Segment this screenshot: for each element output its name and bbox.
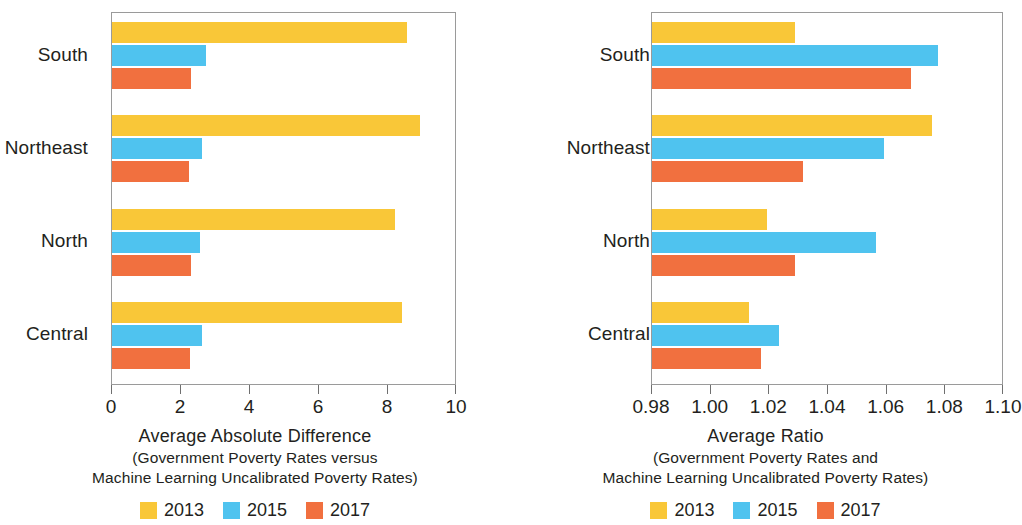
legend-label-2017: 2017 bbox=[841, 500, 881, 521]
bar-south-2017 bbox=[652, 68, 911, 89]
right-axis-title-sub2: Machine Learning Uncalibrated Poverty Ra… bbox=[510, 468, 1021, 488]
x-tick bbox=[768, 385, 769, 394]
x-tick-label: 1.02 bbox=[750, 396, 787, 418]
bar-south-2013 bbox=[652, 22, 795, 43]
category-label-central: Central bbox=[588, 323, 650, 345]
right-category-axis: SouthNortheastNorthCentral bbox=[530, 10, 650, 385]
chart-panel-average-ratio: SouthNortheastNorthCentral 0.981.001.021… bbox=[510, 0, 1021, 525]
bar-south-2013 bbox=[112, 22, 407, 43]
left-category-axis: SouthNortheastNorthCentral bbox=[0, 10, 88, 385]
legend-swatch-icon-2013 bbox=[650, 502, 667, 519]
bar-northeast-2017 bbox=[112, 161, 189, 182]
legend-swatch-icon-2015 bbox=[733, 502, 750, 519]
legend-label-2017: 2017 bbox=[330, 500, 370, 521]
x-tick bbox=[1002, 385, 1003, 394]
x-tick bbox=[249, 385, 250, 394]
legend-item-2013[interactable]: 2013 bbox=[650, 500, 714, 521]
right-axis-title: Average Ratio (Government Poverty Rates … bbox=[510, 425, 1021, 488]
x-tick-label: 6 bbox=[313, 396, 324, 418]
left-axis-title: Average Absolute Difference (Government … bbox=[0, 425, 510, 488]
legend-item-2017[interactable]: 2017 bbox=[306, 500, 370, 521]
x-tick bbox=[387, 385, 388, 394]
legend-swatch-icon-2013 bbox=[140, 502, 157, 519]
legend-item-2015[interactable]: 2015 bbox=[733, 500, 797, 521]
legend-label-2013: 2013 bbox=[164, 500, 204, 521]
legend-swatch-icon-2017 bbox=[306, 502, 323, 519]
x-tick-label: 0.98 bbox=[633, 396, 670, 418]
category-label-north: North bbox=[41, 230, 88, 252]
x-tick-label: 0 bbox=[106, 396, 117, 418]
bar-central-2015 bbox=[112, 325, 202, 346]
left-plot-area bbox=[111, 12, 456, 385]
bar-northeast-2013 bbox=[652, 115, 932, 136]
category-label-north: North bbox=[603, 230, 650, 252]
x-tick-label: 1.04 bbox=[809, 396, 846, 418]
x-tick bbox=[827, 385, 828, 394]
bar-south-2017 bbox=[112, 68, 191, 89]
x-tick-label: 1.08 bbox=[926, 396, 963, 418]
right-axis-title-main: Average Ratio bbox=[510, 425, 1021, 448]
left-axis-title-sub2: Machine Learning Uncalibrated Poverty Ra… bbox=[0, 468, 510, 488]
right-plot-area bbox=[651, 12, 1003, 385]
x-tick-label: 10 bbox=[445, 396, 466, 418]
left-bars-layer bbox=[112, 13, 455, 384]
legend-label-2015: 2015 bbox=[757, 500, 797, 521]
right-bars-layer bbox=[652, 13, 1002, 384]
chart-panel-average-absolute-difference: SouthNortheastNorthCentral 0246810 Avera… bbox=[0, 0, 510, 525]
x-tick-label: 2 bbox=[175, 396, 186, 418]
bar-central-2017 bbox=[112, 348, 190, 369]
x-tick bbox=[180, 385, 181, 394]
x-tick bbox=[455, 385, 456, 394]
bar-north-2013 bbox=[112, 209, 395, 230]
x-tick bbox=[651, 385, 652, 394]
bar-north-2017 bbox=[112, 255, 191, 276]
x-tick-label: 1.10 bbox=[985, 396, 1022, 418]
category-label-south: South bbox=[38, 44, 88, 66]
bar-south-2015 bbox=[112, 45, 206, 66]
legend-item-2017[interactable]: 2017 bbox=[817, 500, 881, 521]
bar-central-2017 bbox=[652, 348, 761, 369]
x-tick bbox=[886, 385, 887, 394]
bar-northeast-2015 bbox=[112, 138, 202, 159]
x-tick-label: 1.00 bbox=[691, 396, 728, 418]
x-tick-label: 8 bbox=[382, 396, 393, 418]
bar-northeast-2015 bbox=[652, 138, 884, 159]
bar-north-2015 bbox=[112, 232, 200, 253]
category-label-northeast: Northeast bbox=[5, 137, 88, 159]
bar-northeast-2013 bbox=[112, 115, 420, 136]
right-legend: 201320152017 bbox=[510, 500, 1021, 521]
legend-item-2015[interactable]: 2015 bbox=[223, 500, 287, 521]
bar-north-2013 bbox=[652, 209, 767, 230]
x-tick bbox=[944, 385, 945, 394]
right-axis-title-sub1: (Government Poverty Rates and bbox=[510, 448, 1021, 468]
legend-label-2013: 2013 bbox=[674, 500, 714, 521]
x-tick-label: 4 bbox=[244, 396, 255, 418]
x-tick bbox=[710, 385, 711, 394]
legend-label-2015: 2015 bbox=[247, 500, 287, 521]
bar-central-2013 bbox=[652, 302, 749, 323]
right-x-axis-ticks: 0.981.001.021.041.061.081.10 bbox=[651, 385, 1003, 394]
bar-north-2015 bbox=[652, 232, 876, 253]
bar-central-2013 bbox=[112, 302, 402, 323]
left-x-axis-ticks: 0246810 bbox=[111, 385, 456, 394]
left-axis-title-sub1: (Government Poverty Rates versus bbox=[0, 448, 510, 468]
x-tick bbox=[318, 385, 319, 394]
category-label-south: South bbox=[600, 44, 650, 66]
legend-swatch-icon-2015 bbox=[223, 502, 240, 519]
x-tick-label: 1.06 bbox=[867, 396, 904, 418]
bar-central-2015 bbox=[652, 325, 779, 346]
category-label-central: Central bbox=[26, 323, 88, 345]
bar-northeast-2017 bbox=[652, 161, 803, 182]
legend-item-2013[interactable]: 2013 bbox=[140, 500, 204, 521]
legend-swatch-icon-2017 bbox=[817, 502, 834, 519]
left-legend: 201320152017 bbox=[0, 500, 510, 521]
category-label-northeast: Northeast bbox=[567, 137, 650, 159]
left-axis-title-main: Average Absolute Difference bbox=[0, 425, 510, 448]
bar-south-2015 bbox=[652, 45, 938, 66]
bar-north-2017 bbox=[652, 255, 795, 276]
x-tick bbox=[111, 385, 112, 394]
